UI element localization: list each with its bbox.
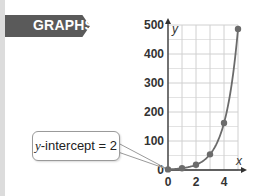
data-point [165, 166, 171, 172]
y-tick-label: 300 [144, 76, 164, 90]
y-tick-label: 200 [144, 105, 164, 119]
exponential-curve [168, 29, 238, 169]
x-tick-label: 2 [193, 175, 200, 189]
y-tick-labels: 0100200300400500 [144, 18, 164, 177]
y-axis-arrow [165, 18, 171, 24]
grid [168, 25, 238, 170]
x-tick-label: 4 [221, 175, 228, 189]
data-point [207, 151, 213, 157]
data-point [221, 120, 227, 126]
data-point [193, 162, 199, 168]
y-tick-label: 400 [144, 47, 164, 61]
exponential-chart: 0100200300400500 024 x y [0, 0, 255, 196]
y-intercept-callout: y-intercept = 2 [32, 131, 120, 161]
x-tick-label: 0 [165, 175, 172, 189]
data-point [179, 165, 185, 171]
callout-pointer [118, 152, 168, 169]
data-point [235, 26, 241, 32]
x-axis-label: x [235, 154, 243, 168]
y-tick-label: 500 [144, 18, 164, 32]
y-axis-label: y [171, 22, 179, 36]
axes [165, 18, 247, 173]
y-tick-label: 100 [144, 134, 164, 148]
callout-text: -intercept = 2 [41, 138, 117, 153]
x-tick-labels: 024 [165, 175, 228, 189]
